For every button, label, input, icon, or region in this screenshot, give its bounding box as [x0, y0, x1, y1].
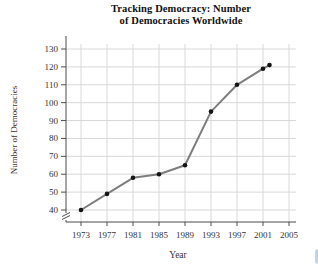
data-point	[79, 208, 84, 213]
series-line	[81, 65, 270, 210]
democracy-line-chart-figure: Tracking Democracy: Number of Democracie…	[0, 0, 318, 277]
x-tick-label: 2005	[280, 230, 299, 240]
y-tick-label: 40	[49, 205, 59, 215]
x-tick-label: 2001	[254, 230, 272, 240]
y-axis-title: Number of Democracies	[9, 86, 19, 174]
data-point	[235, 82, 240, 87]
y-tick-label: 90	[49, 116, 59, 126]
x-tick-label: 1985	[150, 230, 169, 240]
data-point	[209, 109, 214, 114]
data-point	[183, 163, 188, 168]
y-tick-label: 70	[49, 151, 59, 161]
y-tick-label: 60	[49, 169, 59, 179]
line-chart-canvas: 4050607080901001101201301973197719811985…	[0, 0, 318, 277]
y-tick-label: 120	[45, 62, 59, 72]
y-tick-label: 80	[49, 133, 59, 143]
x-tick-label: 1997	[228, 230, 247, 240]
y-tick-label: 110	[45, 80, 59, 90]
x-tick-label: 1989	[176, 230, 195, 240]
page-edge-artifact	[315, 249, 318, 264]
x-tick-label: 1993	[202, 230, 221, 240]
y-tick-label: 50	[49, 187, 59, 197]
data-point	[105, 192, 110, 197]
data-point	[267, 63, 272, 68]
data-point	[131, 176, 136, 181]
x-axis-title: Year	[66, 250, 290, 260]
x-tick-label: 1977	[98, 230, 117, 240]
x-tick-label: 1981	[124, 230, 142, 240]
data-point	[261, 66, 266, 71]
data-point	[157, 172, 162, 177]
y-tick-label: 100	[45, 98, 59, 108]
x-tick-label: 1973	[72, 230, 91, 240]
y-tick-label: 130	[45, 44, 59, 54]
